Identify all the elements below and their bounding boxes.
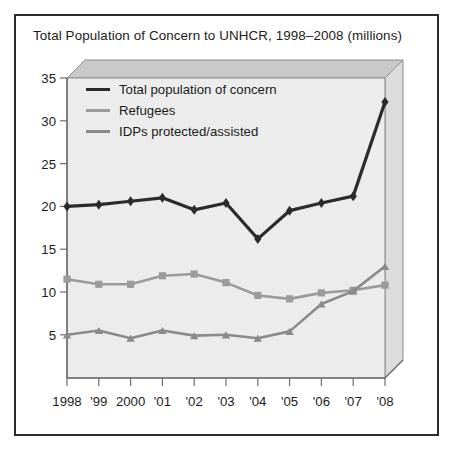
x-axis-label-06: '06 (313, 394, 330, 409)
legend-swatch-total (86, 88, 110, 91)
y-axis-label-25: 25 (24, 156, 56, 171)
legend-item-refugees: Refugees (86, 100, 326, 121)
x-axis-label-04: '04 (249, 394, 266, 409)
square-marker (127, 281, 134, 288)
chart-legend: Total population of concern Refugees IDP… (86, 79, 326, 142)
legend-item-total: Total population of concern (86, 79, 326, 100)
y-axis-label-5: 5 (24, 327, 56, 342)
legend-label-total: Total population of concern (119, 82, 277, 97)
x-axis-label-05: '05 (281, 394, 298, 409)
square-marker (318, 289, 325, 296)
square-marker (222, 279, 229, 286)
x-axis-label-99: '99 (90, 394, 107, 409)
legend-item-idps: IDPs protected/assisted (86, 121, 326, 142)
y-axis-label-10: 10 (24, 285, 56, 300)
x-axis-label-08: '08 (376, 394, 393, 409)
x-axis-ticks (67, 378, 385, 386)
legend-label-idps: IDPs protected/assisted (119, 124, 258, 139)
square-marker (159, 272, 166, 279)
x-axis-label-03: '03 (217, 394, 234, 409)
x-axis-label-2000: 2000 (116, 394, 145, 409)
plot-right-wall (385, 60, 403, 378)
legend-swatch-refugees (86, 109, 110, 112)
y-axis-label-35: 35 (24, 71, 56, 86)
square-marker (381, 282, 388, 289)
chart-plot-area (0, 0, 456, 453)
square-marker (63, 276, 70, 283)
y-axis-label-15: 15 (24, 242, 56, 257)
legend-label-refugees: Refugees (119, 103, 175, 118)
x-axis-label-07: '07 (345, 394, 362, 409)
x-axis-label-01: '01 (154, 394, 171, 409)
square-marker (254, 292, 261, 299)
legend-swatch-idps (86, 130, 110, 133)
square-marker (286, 295, 293, 302)
y-axis-label-30: 30 (24, 113, 56, 128)
square-marker (191, 270, 198, 277)
square-marker (95, 281, 102, 288)
x-axis-label-1998: 1998 (52, 394, 81, 409)
plot-top-wall (67, 60, 403, 78)
y-axis-label-20: 20 (24, 199, 56, 214)
chart-screenshot: Total Population of Concern to UNHCR, 19… (0, 0, 456, 453)
x-axis-label-02: '02 (186, 394, 203, 409)
